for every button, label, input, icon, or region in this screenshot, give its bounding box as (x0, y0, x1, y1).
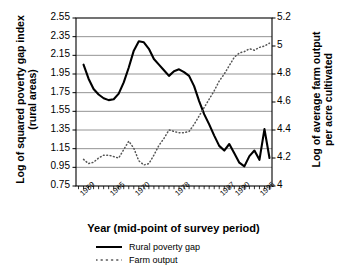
chart-legend: Rural poverty gapFarm output (96, 240, 200, 266)
legend-swatch-dotted (96, 255, 122, 265)
plot-area (0, 0, 347, 269)
legend-label: Farm output (129, 255, 178, 265)
legend-item: Rural poverty gap (96, 240, 200, 253)
legend-label: Rural poverty gap (129, 242, 200, 252)
legend-swatch-solid (96, 242, 122, 252)
chart-figure: Log of squared poverty gap index (rural … (0, 0, 347, 269)
plot-frame (76, 18, 272, 186)
series-line-1 (84, 43, 270, 165)
series-line-0 (84, 41, 270, 166)
legend-item: Farm output (96, 253, 200, 266)
